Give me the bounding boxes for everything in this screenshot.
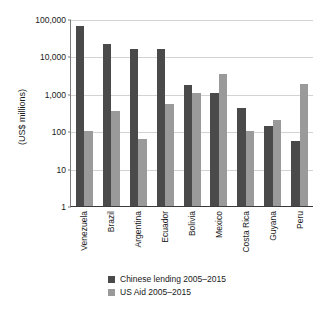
x-axis-label-guyana: Guyana bbox=[268, 211, 278, 241]
bar bbox=[273, 120, 282, 206]
legend-entry: US Aid 2005–2015 bbox=[108, 287, 226, 297]
x-axis-label-argentina: Argentina bbox=[133, 211, 143, 247]
bar-chart-figure: (US$ millions) 100,00010,0001,000100101 … bbox=[0, 0, 328, 316]
bar-group bbox=[179, 20, 206, 206]
bars-layer bbox=[71, 20, 313, 206]
bar bbox=[76, 26, 85, 206]
bar bbox=[192, 93, 201, 206]
bar bbox=[157, 49, 166, 206]
y-axis-tick-label: 100,000 bbox=[35, 15, 66, 25]
bar bbox=[111, 111, 120, 206]
x-axis-label-cell: Costa Rica bbox=[232, 209, 259, 271]
bar bbox=[246, 131, 255, 206]
bar bbox=[210, 93, 219, 206]
y-axis-tick-mark bbox=[68, 207, 71, 208]
bar-group bbox=[152, 20, 179, 206]
x-axis-label-peru: Peru bbox=[295, 211, 305, 229]
x-axis-label-cell: Peru bbox=[286, 209, 313, 271]
bar-group bbox=[71, 20, 98, 206]
bar bbox=[237, 108, 246, 206]
legend-swatch-icon bbox=[108, 289, 115, 296]
legend-entry: Chinese lending 2005–2015 bbox=[108, 274, 226, 284]
chart-legend: Chinese lending 2005–2015US Aid 2005–201… bbox=[108, 274, 226, 297]
legend-swatch-icon bbox=[108, 276, 115, 283]
x-axis-label-ecuador: Ecuador bbox=[160, 211, 170, 243]
x-axis-label-mexico: Mexico bbox=[214, 211, 224, 238]
x-axis-label-cell: Venezuela bbox=[70, 209, 97, 271]
x-axis-labels: VenezuelaBrazilArgentinaEcuadorBoliviaMe… bbox=[70, 209, 313, 271]
x-axis-label-cell: Argentina bbox=[124, 209, 151, 271]
x-axis-label-brazil: Brazil bbox=[106, 211, 116, 232]
y-axis-tick-label: 1,000 bbox=[45, 90, 66, 100]
bar bbox=[138, 139, 147, 206]
bar bbox=[300, 84, 309, 206]
bar bbox=[103, 44, 112, 206]
x-axis-label-cell: Guyana bbox=[259, 209, 286, 271]
bar bbox=[84, 131, 93, 206]
legend-label: Chinese lending 2005–2015 bbox=[120, 274, 226, 284]
plot-area: 100,00010,0001,000100101 bbox=[70, 20, 313, 207]
bar-group bbox=[98, 20, 125, 206]
bar bbox=[184, 85, 193, 206]
y-axis-title-text: (US$ millions) bbox=[17, 89, 27, 145]
y-axis-tick-label: 1 bbox=[61, 202, 66, 212]
x-axis-label-cell: Bolivia bbox=[178, 209, 205, 271]
bar-group bbox=[232, 20, 259, 206]
bar bbox=[165, 104, 174, 206]
bar-group bbox=[259, 20, 286, 206]
y-axis-tick-label: 10 bbox=[57, 165, 66, 175]
x-axis-label-venezuela: Venezuela bbox=[79, 211, 89, 251]
x-axis-label-cell: Mexico bbox=[205, 209, 232, 271]
y-axis-title: (US$ millions) bbox=[14, 62, 30, 172]
bar-group bbox=[125, 20, 152, 206]
x-axis-label-costa-rica: Costa Rica bbox=[241, 211, 251, 253]
x-axis-label-cell: Brazil bbox=[97, 209, 124, 271]
x-axis-label-cell: Ecuador bbox=[151, 209, 178, 271]
legend-label: US Aid 2005–2015 bbox=[120, 287, 191, 297]
y-axis-tick-label: 10,000 bbox=[40, 52, 66, 62]
bar-group bbox=[205, 20, 232, 206]
bar bbox=[130, 49, 139, 206]
y-axis-tick-label: 100 bbox=[52, 127, 66, 137]
bar bbox=[291, 141, 300, 206]
bar bbox=[219, 74, 228, 206]
x-axis-label-bolivia: Bolivia bbox=[187, 211, 197, 236]
bar-group bbox=[286, 20, 313, 206]
bar bbox=[264, 126, 273, 206]
